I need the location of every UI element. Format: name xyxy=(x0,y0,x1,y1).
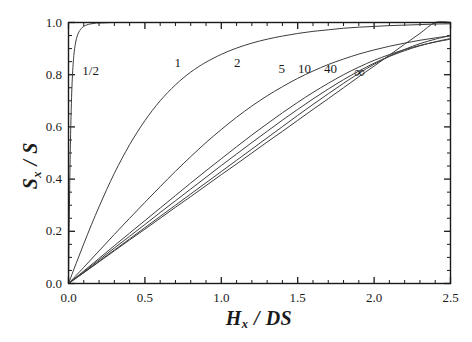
x-tick-label: 1.5 xyxy=(290,290,306,306)
curve-label-2: 2 xyxy=(234,55,241,71)
y-axis-title: Sx / S xyxy=(19,106,44,226)
curve-label-40: 40 xyxy=(324,61,337,77)
curve-label-10: 10 xyxy=(298,61,311,77)
x-tick-label: 0.5 xyxy=(137,290,153,306)
x-tick-label: 2.0 xyxy=(366,290,382,306)
y-tick-label: 0.8 xyxy=(30,67,62,83)
y-tick-label: 1.0 xyxy=(30,15,62,31)
x-tick-label: 2.5 xyxy=(442,290,458,306)
curve-label-1: 1 xyxy=(175,55,182,71)
chart-figure: 0.00.51.01.52.02.5 0.00.20.40.60.81.0 1/… xyxy=(0,0,472,342)
x-tick-label: 1.0 xyxy=(213,290,229,306)
x-axis-title: Hx / DS xyxy=(226,307,292,332)
y-tick-label: 0.0 xyxy=(30,276,62,292)
curve-label-∞: ∞ xyxy=(354,64,365,81)
curve-label-5: 5 xyxy=(278,61,285,77)
x-tick-label: 0.0 xyxy=(60,290,76,306)
curve-label-1/2: 1/2 xyxy=(82,63,99,79)
